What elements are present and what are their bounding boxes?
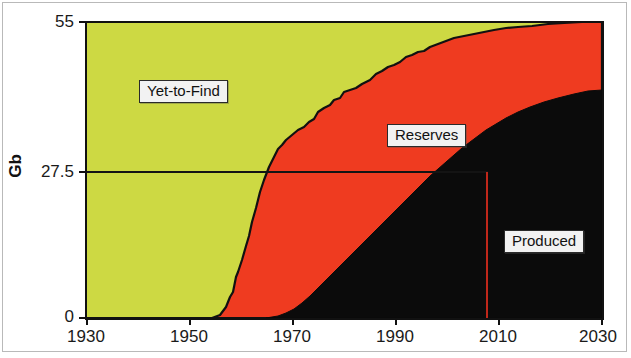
oil-depletion-chart: 55 27.5 0 Gb 1930 1950 1970 1990 2010 20…	[0, 0, 631, 358]
x-tick-label-1950: 1950	[154, 327, 224, 347]
x-tick-label-2030: 2030	[563, 327, 631, 347]
y-tick-label-27-5: 27.5	[20, 162, 74, 182]
series-label-reserves: Reserves	[387, 124, 466, 147]
chart-svg	[86, 22, 602, 318]
y-tick-label-0: 0	[20, 307, 74, 327]
x-axis-line	[85, 318, 604, 320]
plot-right-border	[602, 21, 604, 320]
x-tick-mark-1930	[86, 319, 88, 325]
x-tick-mark-1990	[395, 319, 397, 325]
y-axis-title: Gb	[6, 146, 26, 186]
x-tick-mark-1950	[189, 319, 191, 325]
x-tick-label-1930: 1930	[51, 327, 121, 347]
x-tick-label-1990: 1990	[360, 327, 430, 347]
plot-top-border	[85, 21, 604, 23]
x-tick-label-1970: 1970	[257, 327, 327, 347]
y-tick-mark-0	[79, 317, 86, 319]
half-depletion-line	[86, 171, 488, 173]
y-tick-mark-55	[79, 21, 86, 23]
x-tick-mark-2030	[601, 319, 603, 325]
midpoint-year-line	[486, 172, 488, 318]
y-tick-label-55: 55	[20, 12, 74, 32]
series-label-produced: Produced	[504, 230, 584, 253]
series-label-yet-to-find: Yet-to-Find	[139, 80, 228, 103]
x-tick-mark-1970	[292, 319, 294, 325]
y-tick-mark-27-5	[79, 171, 86, 173]
plot-area	[86, 22, 602, 318]
x-tick-label-2010: 2010	[463, 327, 533, 347]
x-tick-mark-2010	[498, 319, 500, 325]
